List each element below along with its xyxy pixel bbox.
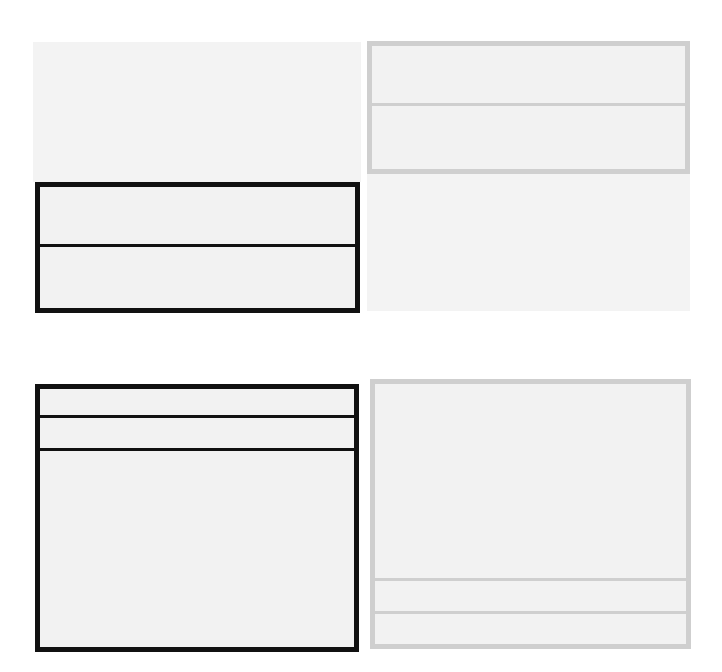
row-divider xyxy=(40,448,354,451)
panel-background xyxy=(367,174,690,311)
row-divider xyxy=(375,611,686,614)
highlight-frame xyxy=(35,384,359,652)
row-divider xyxy=(375,578,686,581)
highlight-frame xyxy=(35,182,360,313)
highlight-frame xyxy=(367,41,690,174)
row-divider xyxy=(40,244,355,247)
panel-background xyxy=(33,42,361,182)
row-divider xyxy=(372,103,685,106)
row-divider xyxy=(40,415,354,418)
highlight-frame xyxy=(370,379,691,649)
